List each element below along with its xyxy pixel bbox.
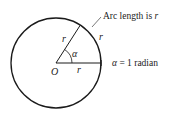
arc-callout-prefix: Arc length is — [103, 11, 154, 21]
center-label: O — [51, 66, 58, 77]
angle-label: α — [72, 48, 78, 59]
radius-label-slanted: r — [62, 33, 66, 44]
arc-callout-var: r — [154, 11, 158, 21]
arc-callout-pointer — [92, 17, 101, 27]
angle-arc — [65, 50, 72, 64]
arc-label: r — [99, 31, 103, 42]
radius-label-horizontal: r — [77, 64, 81, 75]
equation-text: α = 1 radian — [112, 58, 158, 68]
arc-callout-text: Arc length is r — [103, 11, 158, 21]
equation-rest: = 1 radian — [117, 58, 158, 68]
radian-diagram: O r r r α Arc length is r α = 1 radian — [0, 0, 179, 118]
